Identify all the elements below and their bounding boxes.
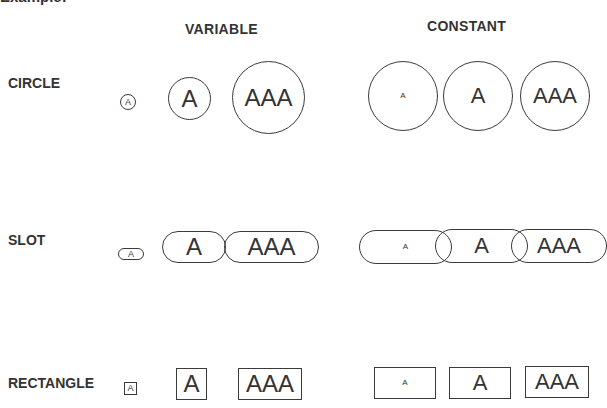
slot-variable-small: A [118,248,144,260]
row-label-slot: SLOT [8,232,45,248]
shape-text: A [402,379,407,387]
circle-variable-medium: A [168,77,211,120]
shape-text: A [128,250,134,259]
shape-text: AAA [535,371,579,393]
shape-text: A [473,372,488,394]
rect-constant-1: A [374,367,436,399]
shape-text: A [403,243,408,251]
circle-constant-2: A [443,61,513,131]
rect-constant-2: A [449,367,511,399]
shape-text: AAA [247,235,295,259]
shape-text: A [400,92,405,100]
rect-constant-3: AAA [525,366,589,398]
row-label-rectangle: RECTANGLE [8,375,94,391]
circle-variable-large: AAA [232,61,305,134]
rect-variable-small: A [124,382,137,395]
shape-text: A [186,235,202,259]
circle-variable-small: A [120,94,136,110]
rect-variable-medium: A [176,368,207,400]
shape-text: A [127,384,133,393]
shape-text: AAA [246,372,294,396]
shape-text: A [125,98,131,107]
column-heading-variable: VARIABLE [185,21,258,37]
rect-variable-large: AAA [238,368,302,400]
slot-variable-medium: A [162,231,226,263]
circle-constant-3: AAA [520,61,590,131]
shape-text: A [183,372,199,396]
shape-text: AAA [533,85,577,107]
circle-constant-1: A [368,61,438,131]
column-heading-constant: CONSTANT [427,18,506,34]
shape-text: AAA [537,235,581,257]
shape-text: A [181,87,197,111]
shape-text: A [474,235,489,257]
slot-variable-large: AAA [224,231,319,263]
page-title: Example: [0,0,67,5]
shape-text: A [471,85,486,107]
slot-constant-3: AAA [511,229,607,263]
row-label-circle: CIRCLE [8,75,60,91]
shape-text: AAA [244,86,292,110]
